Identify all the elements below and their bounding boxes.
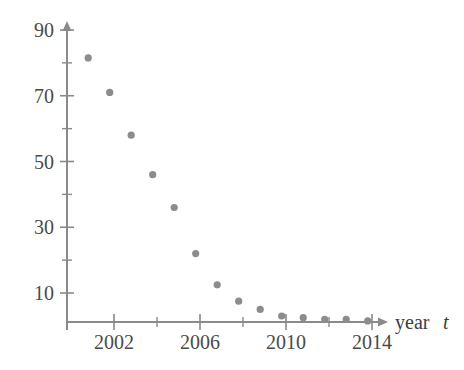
y-tick-label: 90 bbox=[34, 19, 54, 41]
y-tick-label: 70 bbox=[34, 85, 54, 107]
data-point bbox=[85, 54, 92, 61]
x-tick-label: 2002 bbox=[94, 331, 134, 353]
y-axis: 1030507090 bbox=[34, 19, 74, 330]
data-point bbox=[128, 132, 135, 139]
x-axis-arrow-icon bbox=[378, 318, 388, 327]
data-point bbox=[192, 250, 199, 257]
y-axis-tick-labels: 1030507090 bbox=[34, 19, 54, 304]
data-point bbox=[257, 306, 264, 313]
x-axis-title-variable: t bbox=[443, 311, 449, 333]
chart-svg: 1030507090 2002200620102014 year t bbox=[0, 0, 464, 370]
x-axis-title: year bbox=[395, 311, 430, 334]
data-point bbox=[300, 314, 307, 321]
y-tick-label: 10 bbox=[34, 282, 54, 304]
scatter-chart: 1030507090 2002200620102014 year t bbox=[0, 0, 464, 370]
data-point bbox=[149, 171, 156, 178]
data-point bbox=[278, 312, 285, 319]
y-tick-label: 50 bbox=[34, 151, 54, 173]
data-point bbox=[214, 281, 221, 288]
data-point bbox=[321, 316, 328, 323]
data-point bbox=[343, 316, 350, 323]
data-point-group bbox=[85, 54, 372, 324]
x-axis-tick-labels: 2002200620102014 bbox=[94, 331, 392, 353]
data-point bbox=[364, 317, 371, 324]
x-tick-label: 2006 bbox=[180, 331, 220, 353]
data-point bbox=[171, 204, 178, 211]
data-point bbox=[106, 89, 113, 96]
y-tick-label: 30 bbox=[34, 216, 54, 238]
x-tick-label: 2010 bbox=[266, 331, 306, 353]
data-point bbox=[235, 298, 242, 305]
x-tick-label: 2014 bbox=[352, 331, 392, 353]
